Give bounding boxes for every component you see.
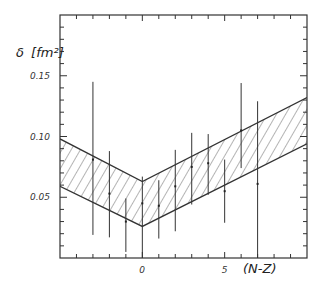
- data-point: [92, 159, 94, 161]
- y-tick-label: 0.15: [30, 71, 50, 81]
- y-tick-label: 0.05: [30, 192, 50, 202]
- data-point: [108, 193, 110, 195]
- data-point: [240, 129, 242, 131]
- x-axis-title: (N-Z): [243, 261, 276, 276]
- x-tick-label: 0: [139, 265, 145, 275]
- data-point: [158, 205, 160, 207]
- data-point: [141, 202, 143, 204]
- hatched-band: [60, 98, 307, 227]
- data-point: [207, 162, 209, 164]
- x-tick-label: 5: [222, 265, 228, 275]
- chart-svg: 050.050.100.15 δ [fm²] (N-Z): [0, 0, 321, 295]
- data-point: [191, 166, 193, 168]
- y-tick-label: 0.10: [30, 132, 50, 142]
- y-axis-symbol: δ: [16, 45, 24, 60]
- data-point: [257, 183, 259, 185]
- y-axis-title: δ [fm²]: [16, 45, 64, 60]
- data-point: [125, 221, 127, 223]
- data-point: [224, 190, 226, 192]
- y-axis-unit: [fm²]: [31, 45, 64, 60]
- data-point: [174, 185, 176, 187]
